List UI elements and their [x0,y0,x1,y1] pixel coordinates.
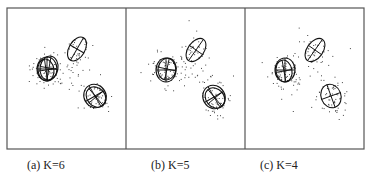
gaussian-component-ellipses [37,34,345,113]
component-ellipse [82,83,110,111]
scatter-points [29,20,351,120]
component-ellipse [317,81,344,110]
component-ellipse [301,35,329,65]
figure-frame [7,8,364,149]
panel-c-ellipses [274,35,344,111]
component-ellipse [156,56,178,81]
gmm-cluster-figure [0,0,370,184]
component-ellipse [64,34,91,65]
caption-panel-b: (b) K=5 [151,158,189,173]
caption-panel-c: (c) K=4 [260,158,298,173]
component-ellipse [182,35,210,65]
caption-panel-a: (a) K=6 [27,158,65,173]
panel-a-ellipses [37,34,111,112]
component-ellipse [201,84,229,112]
panel-frames [7,8,364,149]
